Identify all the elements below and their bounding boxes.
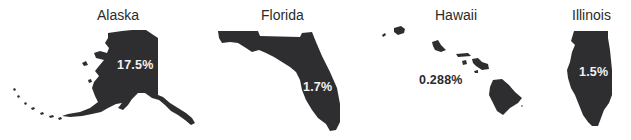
stray-dot — [521, 105, 523, 107]
state-value-alaska: 17.5% — [117, 58, 153, 72]
state-map-graphic — [0, 0, 631, 140]
state-title-alaska: Alaska — [97, 7, 139, 23]
hawaii-shape — [382, 26, 522, 115]
state-title-hawaii: Hawaii — [435, 7, 477, 23]
state-title-florida: Florida — [261, 7, 304, 23]
state-title-illinois: Illinois — [572, 7, 611, 23]
state-value-illinois: 1.5% — [579, 65, 608, 79]
state-value-florida: 1.7% — [303, 80, 332, 94]
state-value-hawaii: 0.288% — [419, 73, 463, 87]
alaska-shape — [13, 30, 195, 125]
